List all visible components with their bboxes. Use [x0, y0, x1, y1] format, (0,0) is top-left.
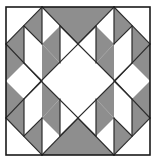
quilt-block-canvas	[0, 0, 156, 162]
quilt-block-figure: Quilt Block Diagram Four-by-four patchwo…	[0, 0, 156, 162]
